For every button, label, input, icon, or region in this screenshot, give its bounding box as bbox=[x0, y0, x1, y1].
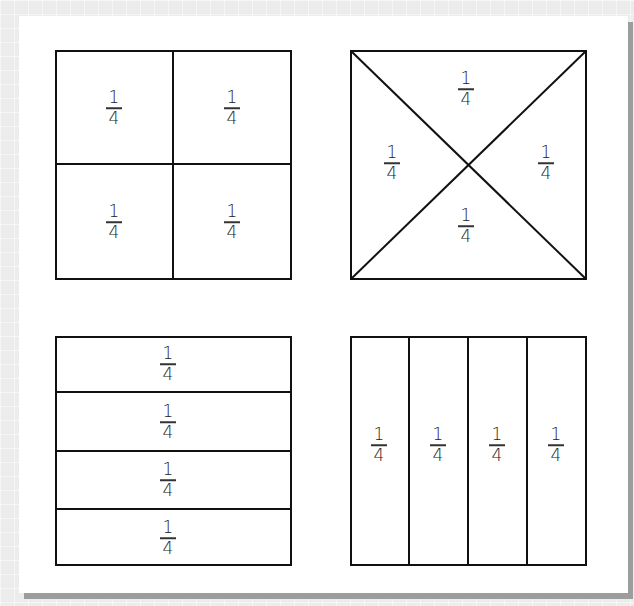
fraction-denominator: 4 bbox=[541, 166, 552, 181]
fraction-numerator: 1 bbox=[433, 427, 444, 442]
fraction-numerator: 1 bbox=[163, 520, 174, 535]
fraction-label: 1 4 bbox=[224, 90, 240, 126]
fraction-label: 1 4 bbox=[106, 204, 122, 240]
fraction-label: 1 4 bbox=[160, 346, 176, 382]
fraction-label: 1 4 bbox=[430, 427, 446, 463]
fraction-denominator: 4 bbox=[433, 448, 444, 463]
fraction-denominator: 4 bbox=[551, 448, 562, 463]
fraction-numerator: 1 bbox=[163, 346, 174, 361]
worksheet-card: 1 4 1 4 1 4 1 4 1 4 1 4 1 4 bbox=[19, 16, 628, 593]
fraction-denominator: 4 bbox=[492, 448, 503, 463]
fraction-denominator: 4 bbox=[163, 425, 174, 440]
fraction-numerator: 1 bbox=[387, 145, 398, 160]
fraction-label: 1 4 bbox=[160, 404, 176, 440]
fraction-denominator: 4 bbox=[109, 111, 120, 126]
fraction-denominator: 4 bbox=[163, 367, 174, 382]
fraction-denominator: 4 bbox=[163, 483, 174, 498]
fraction-numerator: 1 bbox=[461, 71, 472, 86]
fraction-numerator: 1 bbox=[461, 208, 472, 223]
fraction-label: 1 4 bbox=[548, 427, 564, 463]
fraction-label: 1 4 bbox=[160, 462, 176, 498]
fraction-numerator: 1 bbox=[109, 90, 120, 105]
grid-square-shape bbox=[55, 50, 292, 280]
fraction-numerator: 1 bbox=[492, 427, 503, 442]
fraction-label: 1 4 bbox=[384, 145, 400, 181]
fraction-label: 1 4 bbox=[371, 427, 387, 463]
fraction-label: 1 4 bbox=[458, 71, 474, 107]
fraction-denominator: 4 bbox=[227, 111, 238, 126]
fraction-label: 1 4 bbox=[224, 204, 240, 240]
fraction-numerator: 1 bbox=[109, 204, 120, 219]
fraction-numerator: 1 bbox=[541, 145, 552, 160]
fraction-label: 1 4 bbox=[106, 90, 122, 126]
fraction-numerator: 1 bbox=[551, 427, 562, 442]
fraction-denominator: 4 bbox=[163, 541, 174, 556]
fraction-denominator: 4 bbox=[227, 225, 238, 240]
figure-grid-quarters bbox=[55, 50, 292, 280]
fraction-denominator: 4 bbox=[461, 229, 472, 244]
fraction-numerator: 1 bbox=[227, 204, 238, 219]
fraction-label: 1 4 bbox=[489, 427, 505, 463]
fraction-label: 1 4 bbox=[160, 520, 176, 556]
fraction-denominator: 4 bbox=[387, 166, 398, 181]
fraction-label: 1 4 bbox=[538, 145, 554, 181]
fraction-denominator: 4 bbox=[109, 225, 120, 240]
fraction-denominator: 4 bbox=[374, 448, 385, 463]
fraction-numerator: 1 bbox=[163, 462, 174, 477]
fraction-label: 1 4 bbox=[458, 208, 474, 244]
fraction-denominator: 4 bbox=[461, 92, 472, 107]
fraction-numerator: 1 bbox=[163, 404, 174, 419]
fraction-numerator: 1 bbox=[227, 90, 238, 105]
fraction-numerator: 1 bbox=[374, 427, 385, 442]
